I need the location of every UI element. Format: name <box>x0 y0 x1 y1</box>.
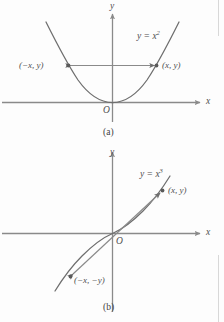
panel-b-x-axis-label: x <box>206 228 210 238</box>
panel-b-graphics <box>2 152 200 312</box>
panel-a-equation-base: y = x <box>137 31 157 41</box>
panel-b-upper-right-point-dot <box>161 189 165 193</box>
panel-a-equation-exponent: 2 <box>157 29 160 36</box>
panel-a-left-point-label: (−x, y) <box>19 61 44 70</box>
figure-container: y x O y = x2 (−x, y) (x, y) (a) y x O y … <box>0 0 224 322</box>
figure-graphics <box>0 0 224 322</box>
panel-a-caption: (a) <box>103 128 114 138</box>
panel-b-origin-label: O <box>116 237 123 247</box>
panel-b-upper-right-point-label: (x, y) <box>168 186 186 195</box>
panel-b-equation-label: y = x3 <box>140 168 163 180</box>
panel-b-caption: (b) <box>103 303 114 313</box>
panel-a-equation-label: y = x2 <box>137 30 160 42</box>
panel-a-x-axis-label: x <box>206 97 210 107</box>
panel-b-lower-left-point-dot <box>69 275 73 279</box>
panel-b-y-axis-label: y <box>110 148 114 158</box>
panel-b-equation-exponent: 3 <box>160 167 163 174</box>
panel-a-origin-label: O <box>103 106 110 116</box>
panel-b-equation-base: y = x <box>140 169 160 179</box>
panel-a-right-point-label: (x, y) <box>162 61 180 70</box>
panel-a-y-axis-label: y <box>110 2 114 12</box>
panel-a-right-point-dot <box>155 64 159 68</box>
panel-b-lower-left-point-label: (−x, −y) <box>74 276 105 285</box>
panel-a-left-point-dot <box>67 64 71 68</box>
